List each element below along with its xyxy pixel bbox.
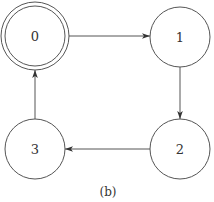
state-label: 3 — [31, 142, 39, 157]
state-diagram: 0 1 2 3 (b) — [0, 0, 214, 202]
state-label: 0 — [31, 29, 39, 44]
state-node-2: 2 — [150, 119, 210, 179]
figure-caption: (b) — [99, 185, 116, 199]
state-label: 2 — [176, 142, 184, 157]
state-label: 1 — [176, 30, 184, 45]
state-node-0: 0 — [1, 2, 69, 70]
state-node-3: 3 — [5, 119, 65, 179]
state-node-1: 1 — [150, 7, 210, 67]
